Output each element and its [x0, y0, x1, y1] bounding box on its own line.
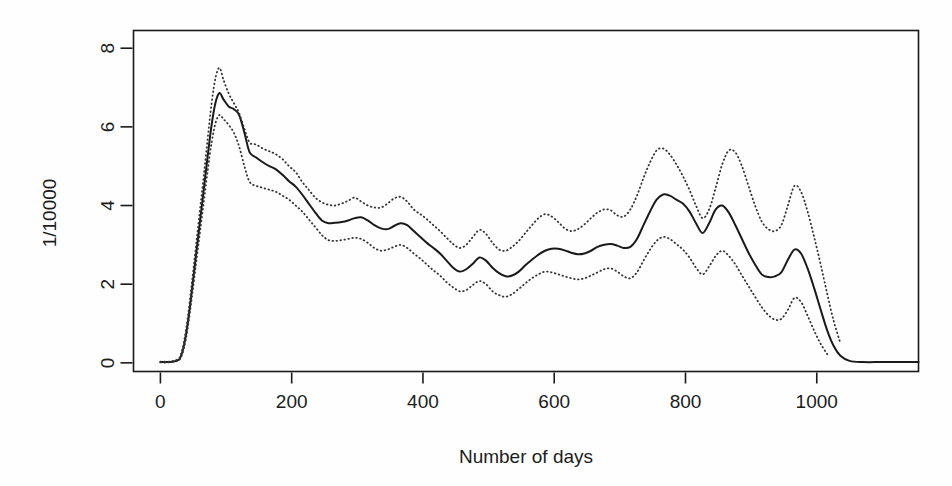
- plot-box-border: [134, 31, 919, 372]
- x-tick-label: 600: [538, 391, 570, 412]
- y-tick-label: 4: [97, 200, 118, 211]
- x-axis-tick-labels-group: 02004006008001000: [155, 391, 838, 412]
- x-tick-label: 800: [670, 391, 702, 412]
- data-series-group: [160, 68, 918, 363]
- x-tick-label: 200: [276, 391, 308, 412]
- plot-canvas: 02004006008001000 02468 Number of days 1…: [0, 0, 952, 486]
- x-axis-title: Number of days: [459, 446, 593, 467]
- y-tick-label: 8: [97, 43, 118, 54]
- y-tick-label: 2: [97, 279, 118, 290]
- x-tick-label: 1000: [796, 391, 838, 412]
- x-tick-label: 400: [407, 391, 439, 412]
- y-tick-label: 0: [97, 358, 118, 369]
- series-line-upper-confidence-band: [160, 68, 840, 362]
- y-axis-title: 1/10000: [39, 179, 60, 248]
- plot-box-group: [134, 31, 919, 372]
- x-tick-label: 0: [155, 391, 166, 412]
- y-axis-tick-labels-group: 02468: [97, 43, 118, 368]
- x-axis-ticks-group: [160, 373, 816, 384]
- y-tick-label: 6: [97, 122, 118, 133]
- series-line-estimate: [160, 93, 918, 362]
- hazard-rate-figure: 02004006008001000 02468 Number of days 1…: [0, 0, 952, 486]
- y-axis-ticks-group: [121, 48, 133, 363]
